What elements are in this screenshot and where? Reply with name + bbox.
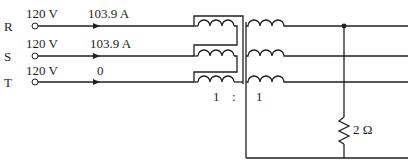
- phase-t-voltage: 120 V: [26, 63, 59, 78]
- resistor-value: 2 Ω: [353, 122, 372, 137]
- phase-s-voltage: 120 V: [26, 36, 59, 51]
- phase-s-current: 103.9 A: [90, 36, 132, 51]
- load-resistor: 2 Ω: [339, 24, 372, 158]
- phase-t-label: T: [4, 75, 12, 90]
- ratio-secondary: 1: [256, 89, 263, 104]
- phase-t: T 120 V 0: [4, 63, 194, 90]
- ratio-separator: :: [232, 89, 236, 104]
- coil-secondary-s-icon: [246, 50, 408, 56]
- coil-primary-r-icon: [198, 20, 234, 26]
- resistor-icon: [339, 117, 349, 144]
- phase-r-voltage: 120 V: [26, 6, 59, 21]
- turns-ratio: 1 : 1: [213, 89, 263, 104]
- transformer-primary: [194, 16, 243, 84]
- arrow-t-icon: [93, 79, 100, 85]
- arrow-r-icon: [93, 23, 100, 29]
- arrow-s-icon: [93, 53, 100, 59]
- phase-s: S 120 V 103.9 A: [4, 36, 194, 64]
- phase-s-label: S: [4, 49, 11, 64]
- terminal-s-icon[interactable]: [32, 53, 38, 59]
- terminal-t-icon[interactable]: [32, 79, 38, 85]
- coil-secondary-r-icon: [246, 20, 408, 26]
- phase-r-label: R: [4, 19, 13, 34]
- terminal-r-icon[interactable]: [32, 23, 38, 29]
- ratio-primary: 1: [213, 89, 220, 104]
- coil-primary-t-icon: [198, 76, 234, 82]
- coil-secondary-t-icon: [246, 76, 408, 82]
- phase-r: R 120 V 103.9 A: [4, 6, 194, 34]
- phase-t-current: 0: [97, 63, 104, 78]
- transformer-secondary: [246, 20, 408, 158]
- coil-primary-s-icon: [198, 50, 234, 56]
- phase-r-current: 103.9 A: [88, 6, 130, 21]
